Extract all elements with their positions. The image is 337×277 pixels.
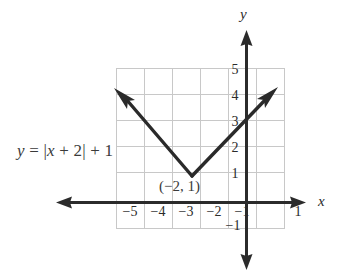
equation-outer-const: 1 [105, 141, 114, 160]
y-tick-label--1: −1 [222, 218, 244, 234]
x-tick-label--3: −3 [176, 204, 196, 220]
y-tick-label-2: 2 [228, 140, 242, 156]
graph-figure: y = |x + 2| + 1 (−2, 1) x y −5 −4 −3 −2 … [0, 0, 337, 277]
absolute-value-curve [114, 87, 278, 176]
grid-lines [116, 68, 285, 229]
x-axis-label: x [318, 193, 325, 210]
y-tick-label-4: 4 [228, 88, 242, 104]
y-axis [241, 30, 253, 270]
y-axis-label: y [240, 6, 247, 23]
equation-plus-outer: + [90, 141, 100, 160]
equation-label: y = |x + 2| + 1 [17, 141, 113, 161]
y-tick-label-5: 5 [228, 62, 242, 78]
coordinate-plane-svg [0, 0, 337, 277]
y-tick-label-1: 1 [228, 166, 242, 182]
vertex-annotation: (−2, 1) [159, 178, 200, 195]
x-tick-label--2: −2 [204, 204, 224, 220]
x-tick-label--4: −4 [148, 204, 168, 220]
y-tick-label-3: 3 [228, 114, 242, 130]
equation-inner-const: 2 [74, 141, 83, 160]
equation-inner-var: x [47, 141, 55, 160]
equation-equals: = [29, 141, 39, 160]
equation-plus-inner: + [59, 141, 69, 160]
x-tick-label-1: 1 [288, 204, 308, 220]
x-tick-label--5: −5 [120, 204, 140, 220]
equation-lhs: y [17, 141, 25, 160]
